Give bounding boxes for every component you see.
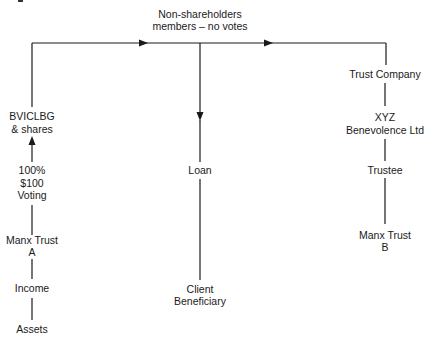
beneficiary-label: Beneficiary xyxy=(174,295,227,307)
arrow-right-icon xyxy=(264,40,273,47)
arrow-down-icon xyxy=(197,112,204,121)
income-label: Income xyxy=(15,282,50,294)
header-label-line1: Non-shareholders xyxy=(158,8,241,20)
client-label: Client xyxy=(187,283,214,295)
manx-trust-b-label: Manx Trust xyxy=(359,229,411,241)
left-column: BVICLBG & shares 100% $100 Voting Manx T… xyxy=(6,110,58,335)
manx-trust-b-letter: B xyxy=(381,241,388,253)
ownership-voting-label: Voting xyxy=(17,189,46,201)
top-connector xyxy=(32,40,386,108)
trust-company-label: Trust Company xyxy=(349,68,421,80)
benevolence-ltd-label: Benevolence Ltd xyxy=(346,124,424,136)
manx-trust-a-letter: A xyxy=(28,246,35,258)
loan-label: Loan xyxy=(188,164,212,176)
ownership-amount-label: $100 xyxy=(20,177,44,189)
bviclbg-label: BVICLBG xyxy=(9,110,55,122)
arrow-up-icon xyxy=(29,136,36,145)
manx-trust-a-label: Manx Trust xyxy=(6,234,58,246)
center-column: Loan Client Beneficiary xyxy=(174,43,227,307)
bviclbg-shares-label: & shares xyxy=(11,123,52,135)
xyz-label: XYZ xyxy=(375,111,396,123)
structure-diagram: Non-shareholders members – no votes BVIC… xyxy=(0,0,433,346)
ownership-percent-label: 100% xyxy=(19,164,46,176)
arrow-right-icon xyxy=(139,40,148,47)
cropped-caption-fragment xyxy=(18,0,23,2)
assets-label: Assets xyxy=(16,323,48,335)
right-column: Trust Company XYZ Benevolence Ltd Truste… xyxy=(346,68,424,253)
header-label-line2: members – no votes xyxy=(152,20,247,32)
trustee-label: Trustee xyxy=(367,164,402,176)
